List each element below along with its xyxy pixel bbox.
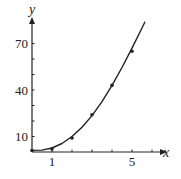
y-axis-label: y (27, 2, 36, 17)
x-tick-label: 1 (49, 154, 56, 169)
y-tick-label: 70 (15, 36, 28, 51)
y-axis-arrow-icon (29, 17, 35, 24)
curve-line (32, 22, 145, 151)
x-tick-label: 5 (129, 154, 136, 169)
y-tick-label: 10 (15, 129, 28, 144)
y-tick-label: 40 (15, 83, 28, 98)
data-point (90, 113, 94, 117)
axes: 15104070 (15, 17, 167, 169)
data-point (130, 49, 134, 53)
data-point (70, 136, 74, 140)
data-point (110, 84, 114, 88)
data-point (30, 149, 34, 153)
fitted-curve (32, 22, 145, 151)
data-point (50, 147, 54, 151)
data-points (30, 49, 134, 152)
x-axis-label: x (162, 145, 170, 160)
chart-plot: 15104070 x y (0, 0, 181, 179)
